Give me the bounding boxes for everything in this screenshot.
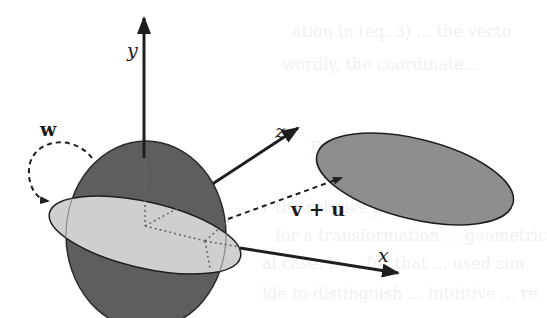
rotation-label-w: w	[39, 118, 57, 140]
translation-label-v-plus-u: v + u	[290, 198, 345, 220]
y-axis-label: y	[126, 39, 138, 61]
z-axis-label: z	[274, 120, 286, 142]
x-axis	[240, 248, 398, 273]
x-axis-label: x	[378, 244, 389, 266]
